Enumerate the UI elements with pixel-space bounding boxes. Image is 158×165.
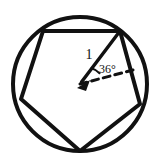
- angle-measure-label: 36°: [99, 62, 116, 76]
- radius-length-label: 1: [86, 47, 93, 62]
- geometry-figure: 1 36°: [0, 0, 158, 165]
- figure-canvas: 1 36°: [0, 0, 158, 165]
